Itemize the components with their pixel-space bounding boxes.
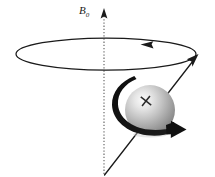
larmor-precession-diagram	[0, 0, 215, 177]
field-axis-group	[101, 8, 108, 176]
magnetic-field-symbol: B	[79, 4, 86, 16]
precession-direction-arrowhead-icon	[141, 41, 154, 48]
precession-ellipse	[16, 38, 196, 70]
physics-diagram-figure: B0	[0, 0, 215, 177]
precession-circle-group	[16, 38, 196, 70]
magnetic-field-label: B0	[79, 5, 89, 21]
magnetic-field-subscript: 0	[86, 11, 90, 19]
